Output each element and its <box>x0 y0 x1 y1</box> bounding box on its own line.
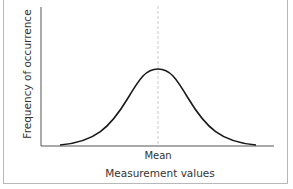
x-axis-label: Measurement values <box>80 167 240 179</box>
y-axis-label: Frequency of occurrence <box>21 0 33 149</box>
x-tick-mean: Mean <box>138 150 178 161</box>
